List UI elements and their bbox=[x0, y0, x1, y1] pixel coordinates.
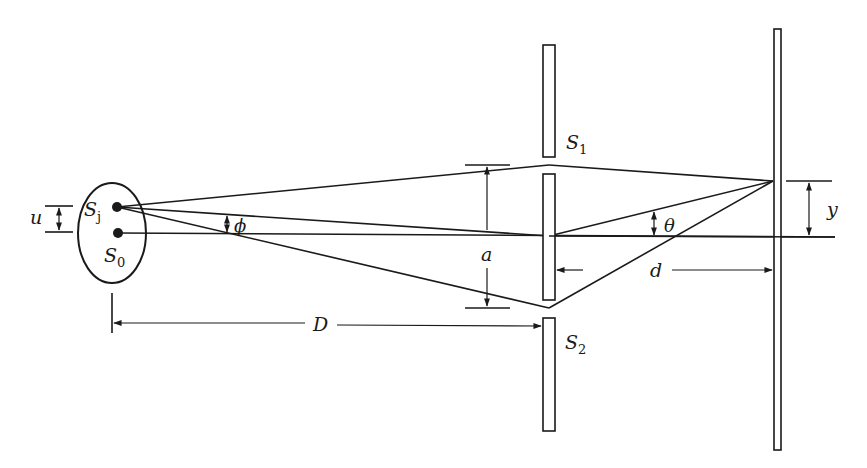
barrier-bottom bbox=[543, 318, 555, 431]
ray-s2-to-screen bbox=[549, 181, 773, 308]
label-d: d bbox=[650, 259, 662, 281]
label-D: D bbox=[312, 313, 328, 335]
axis-overlay bbox=[549, 236, 835, 237]
double-slit-diagram: Sj S0 S1 S2 u ϕ a θ y d D bbox=[0, 0, 867, 468]
label-s0: S0 bbox=[104, 244, 125, 270]
label-sj: Sj bbox=[84, 198, 101, 224]
barrier-top bbox=[543, 45, 555, 157]
observation-screen bbox=[774, 29, 781, 450]
label-s1: S1 bbox=[566, 131, 587, 157]
ray-s1-to-screen bbox=[549, 165, 773, 181]
label-theta: θ bbox=[664, 215, 675, 236]
label-u: u bbox=[30, 206, 42, 228]
D-dimension-right bbox=[337, 325, 541, 326]
barrier-middle bbox=[543, 174, 555, 300]
source-point-s0 bbox=[113, 228, 123, 238]
label-s2: S2 bbox=[565, 331, 586, 357]
label-phi: ϕ bbox=[234, 215, 246, 236]
ray-sj-to-s1 bbox=[117, 165, 549, 207]
label-y: y bbox=[826, 198, 838, 220]
label-a: a bbox=[481, 243, 492, 265]
source-point-sj bbox=[112, 202, 122, 212]
diagram-canvas: Sj S0 S1 S2 u ϕ a θ y d D bbox=[0, 0, 867, 468]
ray-center-to-screen bbox=[549, 181, 773, 236]
